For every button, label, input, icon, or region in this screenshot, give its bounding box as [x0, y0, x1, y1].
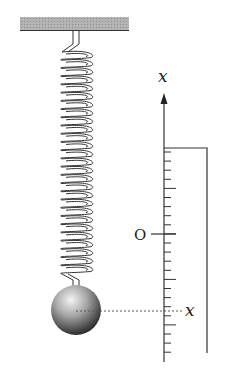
position-label-x: x: [185, 300, 195, 320]
origin-label: O: [134, 226, 146, 244]
bracket-line: [164, 148, 207, 353]
arrow-up-icon: [161, 93, 168, 104]
x-axis: [151, 93, 176, 362]
spring-mass-diagram: x O x: [0, 0, 232, 387]
spring: [61, 31, 93, 290]
mass-ball: [51, 285, 101, 335]
axis-label-x: x: [158, 66, 168, 86]
ceiling: [20, 17, 129, 31]
